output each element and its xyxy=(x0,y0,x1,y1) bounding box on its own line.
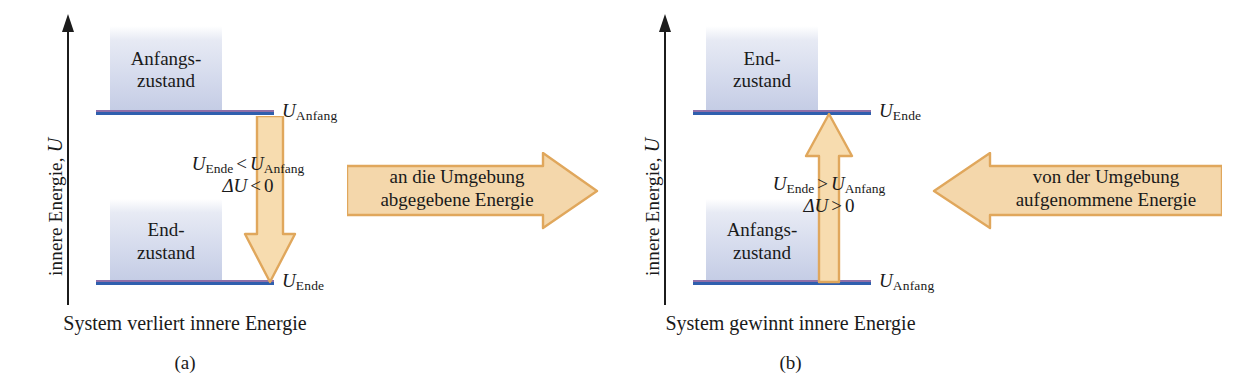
energy-level-final-label-b: UEnde xyxy=(879,100,921,122)
state-box-initial-a: Anfangs- zustand xyxy=(110,26,222,114)
delta-symbol-b: ΔU xyxy=(803,195,828,216)
energy-level-initial-sub-a: Anfang xyxy=(296,108,338,123)
absorbed-energy-label-b-line2: aufgenommene Energie xyxy=(1000,189,1212,212)
released-energy-label-a-line1: an die Umgebung xyxy=(357,166,557,189)
y-axis-label-text-b: innere Energie, xyxy=(642,157,663,276)
energy-change-arrow-down-a xyxy=(243,116,297,284)
inequality-left-sub-b: Ende xyxy=(787,181,815,196)
delta-operator-a: < xyxy=(250,175,261,196)
inequality-right-symbol-b: U xyxy=(831,173,845,194)
inequality-block-b: UEnde>UAnfang ΔU>0 xyxy=(749,173,909,217)
sublabel-a: (a) xyxy=(10,352,360,374)
inequality-block-a: UEnde<UAnfang ΔU<0 xyxy=(178,153,318,197)
energy-level-final-sub-b: Ende xyxy=(893,108,922,123)
released-energy-label-a-line2: abgegebene Energie xyxy=(357,189,557,212)
energy-level-initial-a xyxy=(96,110,274,115)
delta-operator-b: > xyxy=(831,195,842,216)
released-energy-label-a: an die Umgebung abgegebene Energie xyxy=(357,166,557,212)
panel-b: innere Energie, U End- zustand Anfangs- … xyxy=(618,0,1236,388)
inequality-right-sub-a: Anfang xyxy=(264,161,305,176)
y-axis-label-a: innere Energie, U xyxy=(44,138,67,276)
state-box-final-a-line1: End- xyxy=(148,219,185,241)
inequality-line-a: UEnde<UAnfang xyxy=(178,153,318,175)
inequality-right-symbol-a: U xyxy=(250,153,264,174)
state-box-initial-b-line1: Anfangs- xyxy=(727,219,798,241)
panel-a: innere Energie, U Anfangs- zustand End- … xyxy=(0,0,618,388)
state-box-final-a: End- zustand xyxy=(110,199,222,284)
state-box-initial-a-line2: zustand xyxy=(137,70,195,92)
delta-value-b: 0 xyxy=(845,195,855,216)
delta-line-a: ΔU<0 xyxy=(178,175,318,197)
state-box-final-b: End- zustand xyxy=(706,26,818,114)
state-box-final-a-line2: zustand xyxy=(137,242,195,264)
inequality-left-sub-a: Ende xyxy=(206,161,234,176)
energy-level-initial-sub-b: Anfang xyxy=(893,278,935,293)
energy-level-initial-symbol-b: U xyxy=(879,270,893,291)
energy-level-initial-label-b: UAnfang xyxy=(879,270,934,292)
absorbed-energy-label-b-line1: von der Umgebung xyxy=(1000,166,1212,189)
y-axis-label-text-a: innere Energie, xyxy=(45,157,66,276)
state-box-initial-b-line2: zustand xyxy=(733,242,791,264)
energy-level-final-sub-a: Ende xyxy=(296,278,325,293)
inequality-line-b: UEnde>UAnfang xyxy=(749,173,909,195)
y-axis-label-symbol-b: U xyxy=(641,138,663,153)
caption-a: System verliert innere Energie xyxy=(10,312,360,335)
inequality-left-symbol-b: U xyxy=(773,173,787,194)
inequality-operator-b: > xyxy=(817,173,828,194)
absorbed-energy-label-b: von der Umgebung aufgenommene Energie xyxy=(1000,166,1212,212)
caption-b: System gewinnt innere Energie xyxy=(618,312,963,335)
y-axis-label-symbol-a: U xyxy=(44,138,66,153)
y-axis-label-b: innere Energie, U xyxy=(641,138,664,276)
state-box-initial-a-line1: Anfangs- xyxy=(131,48,202,70)
energy-level-final-symbol-b: U xyxy=(879,100,893,121)
y-axis-line-a xyxy=(67,28,69,305)
y-axis-line-b xyxy=(664,28,666,305)
delta-value-a: 0 xyxy=(264,175,274,196)
sublabel-b: (b) xyxy=(618,352,963,374)
energy-diagram-figure: innere Energie, U Anfangs- zustand End- … xyxy=(0,0,1236,388)
inequality-left-symbol-a: U xyxy=(192,153,206,174)
delta-symbol-a: ΔU xyxy=(222,175,247,196)
inequality-right-sub-b: Anfang xyxy=(845,181,886,196)
delta-line-b: ΔU>0 xyxy=(749,195,909,217)
state-box-final-b-line1: End- xyxy=(744,48,781,70)
state-box-final-b-line2: zustand xyxy=(733,70,791,92)
inequality-operator-a: < xyxy=(236,153,247,174)
